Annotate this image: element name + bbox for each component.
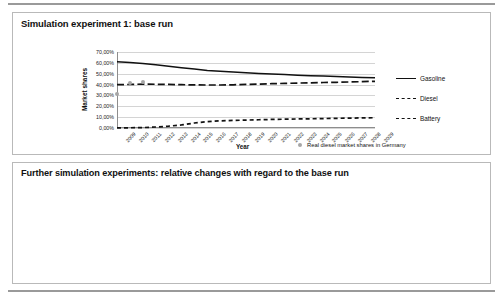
y-axis-tick: 0,00% [99, 125, 114, 131]
scatter-point [115, 92, 119, 96]
line-chart-scatter-legend: Real diesel market shares in Germany [298, 142, 406, 148]
y-axis-tick: 60,00% [96, 60, 114, 66]
gray-dot-icon [298, 143, 302, 147]
line-chart-y-axis-title: Market shares [81, 57, 88, 123]
panel1-title: Simulation experiment 1: base run [21, 18, 173, 29]
line-chart-x-axis-title: Year [236, 143, 249, 150]
gridline [117, 128, 375, 129]
x-axis-tick: 2019 [253, 131, 265, 143]
scatter-point [128, 81, 132, 85]
panel2-title: Further simulation experiments: relative… [21, 168, 349, 178]
x-axis-tick: 2018 [240, 131, 252, 143]
line-series-group [117, 52, 375, 128]
legend-line-swatch [396, 98, 416, 99]
x-axis-tick: 2021 [279, 131, 291, 143]
x-axis-tick: 2013 [176, 131, 188, 143]
y-axis-tick: 50,00% [96, 71, 114, 77]
legend-label: Gasoline [420, 75, 445, 82]
legend-item-gasoline: Gasoline [396, 75, 445, 82]
legend-item-diesel: Diesel [396, 95, 438, 102]
x-axis-tick: 2010 [137, 131, 149, 143]
x-axis-tick: 2016 [215, 131, 227, 143]
line-series-gasoline [117, 62, 375, 78]
y-axis-tick: 20,00% [96, 103, 114, 109]
panel-simulation-experiment-1: Simulation experiment 1: base run Market… [12, 12, 491, 155]
page-rule-bottom [8, 290, 495, 292]
legend-label: Battery [420, 115, 440, 122]
y-axis-tick: 70,00% [96, 49, 114, 55]
x-axis-tick: 2017 [228, 131, 240, 143]
page-rule-top [8, 3, 495, 5]
line-series-diesel [117, 81, 375, 85]
legend-label: Diesel [420, 95, 438, 102]
y-axis-tick: 10,00% [96, 114, 114, 120]
y-axis-tick: 30,00% [96, 92, 114, 98]
legend-line-swatch [396, 118, 416, 119]
panel-further-simulation-experiments: Further simulation experiments: relative… [12, 162, 491, 284]
x-axis-tick: 2011 [150, 131, 162, 143]
line-chart-plot-area: 0,00%10,00%20,00%30,00%40,00%50,00%60,00… [117, 52, 375, 128]
x-axis-tick: 2012 [163, 131, 175, 143]
y-axis-tick: 40,00% [96, 82, 114, 88]
line-series-battery [117, 118, 375, 128]
legend-line-swatch [396, 78, 416, 79]
x-axis-tick: 2015 [202, 131, 214, 143]
figure-page: Simulation experiment 1: base run Market… [0, 0, 503, 295]
scatter-point [141, 80, 145, 84]
x-axis-tick: 2009 [124, 131, 136, 143]
legend-item-battery: Battery [396, 115, 440, 122]
x-axis-tick: 2014 [189, 131, 201, 143]
x-axis-tick: 2020 [266, 131, 278, 143]
